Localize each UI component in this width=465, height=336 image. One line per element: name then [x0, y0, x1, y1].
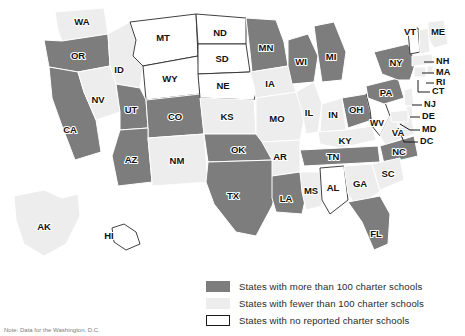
source-note: Note: Data for the Washington, D.C.: [4, 327, 304, 336]
label-AK: AK: [37, 221, 51, 232]
label-TX: TX: [227, 190, 240, 201]
label-OR: OR: [71, 50, 85, 61]
label-MT: MT: [156, 32, 170, 43]
legend-label-fewer-than-100: States with fewer than 100 charter schoo…: [239, 298, 424, 309]
map-legend: States with more than 100 charter school…: [206, 279, 456, 330]
label-HI: HI: [104, 230, 114, 241]
legend-swatch-dark: [206, 281, 230, 292]
label-UT: UT: [125, 104, 138, 115]
label-MN: MN: [259, 42, 274, 53]
label-IA: IA: [265, 78, 275, 89]
callout-label-CT: CT: [432, 86, 445, 96]
us-charter-school-map: .s{stroke:#ffffff;stroke-width:1;} .c0{f…: [0, 0, 465, 336]
label-KS: KS: [220, 111, 233, 122]
label-KY: KY: [338, 135, 352, 146]
legend-label-none-reported: States with no reported charter schools: [239, 315, 409, 326]
legend-label-more-than-100: States with more than 100 charter school…: [239, 281, 422, 292]
label-AR: AR: [273, 151, 287, 162]
callout-label-NH: NH: [436, 56, 450, 66]
callout-label-DE: DE: [422, 111, 435, 121]
label-ND: ND: [213, 27, 227, 38]
label-CA: CA: [63, 124, 77, 135]
label-SC: SC: [381, 168, 394, 179]
legend-item-more-than-100: States with more than 100 charter school…: [206, 279, 456, 294]
callout-label-DC: DC: [420, 136, 434, 146]
label-TN: TN: [327, 151, 340, 162]
label-NE: NE: [216, 80, 229, 91]
legend-swatch-white: [206, 315, 230, 326]
label-AZ: AZ: [125, 154, 138, 165]
label-WI: WI: [295, 56, 307, 67]
label-IL: IL: [305, 107, 314, 118]
label-VA: VA: [392, 127, 405, 138]
state-TN: [300, 146, 380, 166]
label-MO: MO: [269, 113, 284, 124]
label-LA: LA: [280, 193, 293, 204]
label-MS: MS: [304, 185, 318, 196]
callout-label-NJ: NJ: [424, 99, 436, 109]
label-ID: ID: [114, 64, 124, 75]
state-MD: [390, 110, 408, 122]
state-NJ: [404, 88, 414, 106]
label-NC: NC: [392, 146, 406, 157]
label-VT: VT: [404, 26, 416, 37]
label-FL: FL: [370, 228, 382, 239]
label-MI: MI: [326, 51, 337, 62]
label-AL: AL: [327, 182, 340, 193]
legend-swatch-light: [206, 298, 230, 309]
label-OH: OH: [349, 104, 363, 115]
label-GA: GA: [353, 178, 367, 189]
label-NY: NY: [389, 57, 403, 68]
state-NH: [419, 28, 430, 54]
label-NM: NM: [170, 155, 185, 166]
label-OK: OK: [231, 144, 245, 155]
state-CT: [414, 67, 426, 77]
callout-label-MA: MA: [436, 67, 451, 77]
label-WY: WY: [162, 73, 178, 84]
label-IN: IN: [328, 109, 338, 120]
label-WA: WA: [74, 16, 89, 27]
legend-item-none-reported: States with no reported charter schools: [206, 313, 456, 328]
label-ME: ME: [431, 26, 445, 37]
label-NV: NV: [91, 94, 105, 105]
label-SD: SD: [215, 53, 228, 64]
label-CO: CO: [168, 111, 182, 122]
state-MA: [412, 54, 433, 66]
callout-label-MD: MD: [422, 124, 437, 134]
legend-item-fewer-than-100: States with fewer than 100 charter schoo…: [206, 296, 456, 311]
label-PA: PA: [380, 87, 393, 98]
label-WV: WV: [370, 118, 384, 128]
